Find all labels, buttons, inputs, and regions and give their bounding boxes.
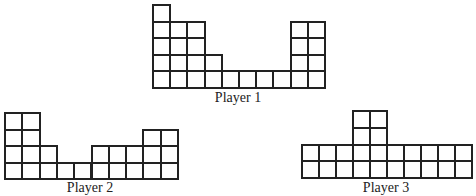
grid-cell [307, 37, 326, 56]
grid-cell [307, 70, 326, 89]
grid-cell [160, 145, 179, 164]
grid-cell [160, 162, 179, 181]
player-2-label: Player 2 [67, 180, 113, 196]
player-1-label: Player 1 [215, 90, 261, 106]
grid-cell [307, 21, 326, 40]
grid-cell [186, 21, 205, 40]
grid-cell [369, 110, 388, 129]
player-3-label: Player 3 [363, 180, 409, 196]
grid-cell [307, 54, 326, 73]
grid-cell [160, 129, 179, 148]
grid-cell [454, 144, 473, 163]
grid-cell [21, 112, 40, 131]
grid-cell [454, 160, 473, 179]
